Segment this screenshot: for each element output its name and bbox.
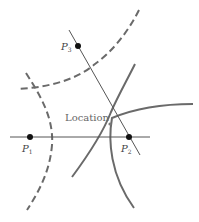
location-label: Location — [65, 113, 109, 123]
point-p3-label: P3 — [61, 42, 72, 53]
diagram-canvas: P3 P1 P2 Location — [0, 0, 199, 222]
point-p1-subscript: 1 — [29, 148, 33, 155]
point-p3-subscript: 3 — [68, 46, 72, 53]
point-p1-marker — [27, 134, 33, 140]
hyperbola-dashed-left — [26, 73, 52, 210]
hyperbola-dashed-upper — [18, 10, 139, 89]
point-p2-subscript: 2 — [128, 148, 132, 155]
point-p1-label: P1 — [22, 144, 33, 155]
point-p2-label: P2 — [121, 144, 132, 155]
point-p3-letter: P — [61, 41, 68, 52]
point-p1-letter: P — [22, 143, 29, 154]
point-p3-marker — [75, 43, 81, 49]
point-p2-letter: P — [121, 143, 128, 154]
hyperbola-solid-right — [110, 104, 193, 208]
diagram-svg — [0, 0, 199, 222]
point-p2-marker — [126, 134, 132, 140]
